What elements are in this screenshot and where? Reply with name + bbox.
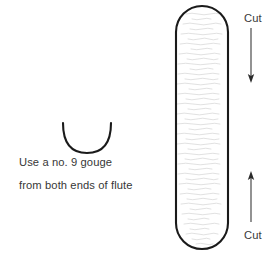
cut-label-bottom: Cut <box>244 229 262 242</box>
gouge-profile-arc <box>63 123 111 153</box>
cut-arrow-bottom <box>248 171 254 222</box>
caption-line-gouge-direction: from both ends of flute <box>19 179 133 192</box>
diagram-canvas <box>0 0 274 263</box>
flute-carving-diagram: Use a no. 9 gouge from both ends of flut… <box>0 0 274 263</box>
cut-label-top: Cut <box>244 12 262 25</box>
caption-line-gouge-spec: Use a no. 9 gouge <box>19 156 112 169</box>
flute-body-fill <box>176 6 228 249</box>
flute-blank-group <box>176 6 228 249</box>
cut-arrow-top <box>248 28 254 83</box>
